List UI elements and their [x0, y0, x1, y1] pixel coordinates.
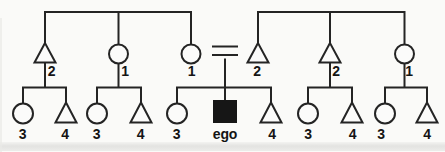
kin-term-label: 4 — [137, 127, 145, 141]
male-triangle-symbol — [248, 43, 269, 63]
male-triangle-symbol — [261, 103, 282, 123]
top-sibling-bar-right — [258, 12, 405, 45]
kin-term-label: 4 — [268, 127, 276, 141]
sibling-bar — [308, 88, 352, 104]
male-triangle-symbol — [342, 103, 363, 123]
kin-term-label: 4 — [349, 127, 357, 141]
kin-term-label: 4 — [423, 127, 431, 141]
female-circle-symbol — [87, 104, 107, 124]
female-circle-symbol — [109, 45, 128, 64]
kin-term-label: 3 — [304, 127, 312, 141]
scan-artifact-band — [0, 142, 445, 151]
sibling-bar — [97, 88, 141, 104]
sibling-bar — [23, 88, 66, 104]
kin-term-label: 3 — [377, 127, 385, 141]
kin-term-label: 3 — [173, 127, 181, 141]
scan-artifact-edge — [0, 18, 2, 152]
male-triangle-symbol — [417, 103, 438, 123]
kin-term-label: 1 — [405, 64, 413, 78]
kin-term-label: 3 — [19, 127, 27, 141]
male-triangle-symbol — [131, 103, 152, 123]
kin-term-label: 1 — [188, 64, 196, 78]
male-triangle-symbol — [35, 43, 56, 63]
marriage-equals-icon — [212, 47, 238, 56]
kin-term-label: 2 — [332, 64, 340, 78]
female-circle-symbol — [167, 104, 187, 124]
female-circle-symbol — [182, 45, 201, 64]
female-circle-symbol — [298, 104, 318, 124]
male-triangle-symbol — [56, 103, 77, 123]
male-triangle-symbol — [320, 43, 341, 63]
female-circle-symbol — [13, 104, 33, 124]
kin-term-label: 3 — [93, 127, 101, 141]
kin-term-label: 1 — [121, 64, 129, 78]
sibling-bar — [385, 88, 427, 104]
female-circle-symbol — [395, 45, 414, 64]
kinship-diagram: 2 1 1 2 2 1 3 4 3 4 3 ego 4 3 4 3 4 — [0, 0, 445, 152]
kin-term-label: 4 — [61, 127, 69, 141]
kin-term-label: 2 — [253, 64, 261, 78]
kin-term-label: 2 — [48, 64, 56, 78]
female-circle-symbol — [375, 104, 395, 124]
ego-label: ego — [213, 127, 237, 141]
ego-square-symbol — [213, 100, 237, 123]
